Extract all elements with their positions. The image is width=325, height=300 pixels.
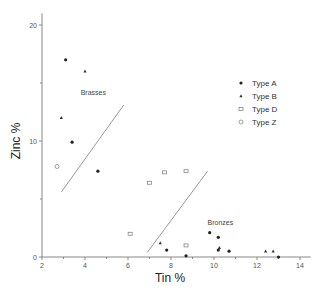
scatter-chart: 246810121401020 BrassesBronzes Type ATyp… — [0, 0, 325, 300]
annotation-label: Bronzes — [208, 219, 234, 226]
legend-label: Type A — [252, 79, 277, 88]
data-point — [217, 236, 220, 239]
divider-line — [61, 105, 123, 192]
x-tick-label: 6 — [126, 262, 130, 269]
legend-marker — [239, 81, 242, 84]
annotations: BrassesBronzes — [81, 89, 234, 226]
data-point — [165, 248, 168, 251]
data-point — [159, 241, 162, 244]
legend-label: Type B — [252, 92, 277, 101]
y-tick-label: 20 — [29, 22, 37, 29]
divider-lines — [61, 105, 207, 252]
data-point — [227, 250, 230, 253]
data-point — [184, 170, 188, 173]
data-point — [218, 246, 221, 249]
x-tick-label: 10 — [210, 262, 218, 269]
data-point — [148, 181, 152, 184]
data-point — [55, 165, 59, 169]
x-tick-label: 12 — [253, 262, 261, 269]
y-tick-label: 0 — [33, 254, 37, 261]
x-tick-label: 4 — [83, 262, 87, 269]
data-point — [83, 70, 86, 73]
data-point — [163, 171, 167, 174]
data-point — [96, 170, 99, 173]
legend-marker — [239, 94, 242, 97]
legend: Type AType BType DType Z — [239, 79, 278, 127]
data-point — [184, 244, 188, 247]
data-point — [64, 58, 67, 61]
legend-marker — [239, 120, 243, 124]
data-point — [71, 141, 74, 144]
annotation-label: Brasses — [81, 89, 107, 96]
legend-marker — [239, 108, 243, 111]
divider-line — [147, 171, 207, 252]
y-axis-title: Zinc % — [9, 122, 23, 159]
data-point — [208, 231, 211, 234]
data-point — [272, 249, 275, 252]
data-point — [128, 232, 132, 235]
data-point — [264, 249, 267, 252]
legend-label: Type Z — [252, 118, 277, 127]
data-point — [277, 255, 280, 258]
x-axis-title: Tin % — [155, 271, 186, 285]
data-point — [60, 116, 63, 119]
data-point — [184, 254, 187, 257]
x-tick-label: 2 — [40, 262, 44, 269]
x-tick-label: 14 — [296, 262, 304, 269]
legend-label: Type D — [252, 105, 278, 114]
y-tick-label: 10 — [29, 138, 37, 145]
x-tick-label: 8 — [169, 262, 173, 269]
